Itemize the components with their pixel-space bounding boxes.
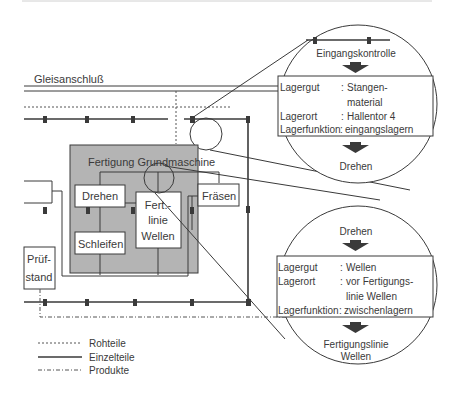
storage-marker xyxy=(43,207,47,214)
svg-text:Lagerort: Lagerort xyxy=(278,276,315,287)
detail-circle-zwischenlager: Drehen Lagergut : Wellen Lagerort : vor … xyxy=(277,206,437,364)
storage-marker xyxy=(190,299,194,306)
storage-marker xyxy=(85,116,89,123)
svg-text:Lagerort: Lagerort xyxy=(280,111,317,122)
station-fraesen: Fräsen xyxy=(198,184,239,206)
external-station-left xyxy=(24,181,52,203)
svg-text:eingangslagern: eingangslagern xyxy=(345,124,413,135)
svg-text:Stangen-: Stangen- xyxy=(347,82,388,93)
detail-bottom-from: Drehen xyxy=(340,226,373,237)
storage-marker xyxy=(190,207,194,214)
svg-text:Drehen: Drehen xyxy=(82,190,118,202)
storage-marker xyxy=(43,116,47,123)
svg-text:Lagergut: Lagergut xyxy=(278,262,318,273)
storage-marker xyxy=(131,116,135,123)
svg-text:zwischenlagern: zwischenlagern xyxy=(344,305,413,316)
material-flow-diagram: Gleisanschluß Fertigung Grundmaschine Dr… xyxy=(0,0,450,394)
hall-title: Fertigung Grundmaschine xyxy=(88,156,215,168)
svg-text:Wellen: Wellen xyxy=(141,230,174,242)
svg-text::: : xyxy=(339,305,342,316)
svg-text::: : xyxy=(341,82,344,93)
pruefstand: Prüf- stand xyxy=(24,247,55,289)
station-schleifen: Schleifen xyxy=(75,232,125,254)
gleisanschluss-label: Gleisanschluß xyxy=(34,73,104,85)
svg-text:material: material xyxy=(347,97,383,108)
storage-marker xyxy=(86,207,90,214)
detail-bottom-to-2: Wellen xyxy=(341,351,371,362)
storage-marker xyxy=(246,206,250,213)
storage-marker xyxy=(85,299,89,306)
detail-top-to: Drehen xyxy=(340,161,373,172)
storage-marker xyxy=(43,299,47,306)
svg-text:linie: linie xyxy=(148,214,168,226)
detail-circle-eingangslager: Eingangskontrolle Lagergut : Stangen- ma… xyxy=(278,25,437,183)
svg-text:Schleifen: Schleifen xyxy=(78,238,123,250)
svg-text:linie Wellen: linie Wellen xyxy=(346,291,397,302)
svg-text::: : xyxy=(340,124,343,135)
legend-label-rohteile: Rohteile xyxy=(89,338,126,349)
svg-text:Fert.-: Fert.- xyxy=(145,199,172,211)
svg-text:Hallentor 4: Hallentor 4 xyxy=(347,111,396,122)
station-drehen: Drehen xyxy=(75,185,125,207)
svg-text:Lagerfunktion: Lagerfunktion xyxy=(278,305,339,316)
svg-text::: : xyxy=(340,276,343,287)
svg-text:Lagergut: Lagergut xyxy=(280,82,320,93)
detail-bottom-to-1: Fertigungslinie xyxy=(323,339,388,350)
legend-label-einzelteile: Einzelteile xyxy=(89,352,135,363)
produkte-flow xyxy=(40,289,300,317)
storage-marker xyxy=(131,207,135,214)
svg-text:Lagerfunktion: Lagerfunktion xyxy=(280,124,341,135)
svg-text:vor Fertigungs-: vor Fertigungs- xyxy=(346,276,413,287)
svg-text:Wellen: Wellen xyxy=(346,262,376,273)
detail-top-from: Eingangskontrolle xyxy=(316,48,396,59)
station-fertigungslinie-wellen: Fert.- linie Wellen xyxy=(136,192,181,248)
svg-text::: : xyxy=(341,111,344,122)
svg-text:Fräsen: Fräsen xyxy=(202,190,236,202)
storage-marker xyxy=(133,299,137,306)
svg-text:stand: stand xyxy=(26,271,53,283)
legend-label-produkte: Produkte xyxy=(89,365,129,376)
legend: Rohteile Einzelteile Produkte xyxy=(38,338,135,376)
svg-text::: : xyxy=(340,262,343,273)
svg-text:Prüf-: Prüf- xyxy=(27,253,51,265)
